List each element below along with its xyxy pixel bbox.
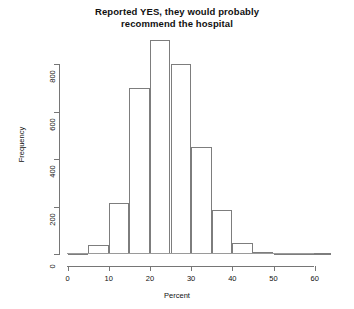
x-axis-tick xyxy=(232,266,233,271)
x-axis-tick-label: 40 xyxy=(220,274,244,283)
x-axis-tick-label: 50 xyxy=(262,274,286,283)
x-axis-tick xyxy=(274,266,275,271)
histogram-plot: Reported YES, they would probably recomm… xyxy=(0,0,354,309)
x-axis-tick xyxy=(315,266,316,271)
y-axis-tick-label: 400 xyxy=(48,159,57,185)
x-axis-tick-label: 10 xyxy=(97,274,121,283)
histogram-bar xyxy=(150,40,171,254)
x-axis-tick-label: 0 xyxy=(56,274,80,283)
x-axis-title: Percent xyxy=(0,291,354,300)
x-axis-tick-label: 20 xyxy=(138,274,162,283)
bar-baseline xyxy=(67,253,314,254)
histogram-bar xyxy=(212,210,233,254)
histogram-bar xyxy=(315,253,331,255)
y-axis-title: Frequency xyxy=(17,115,26,175)
x-axis-tick-label: 30 xyxy=(179,274,203,283)
histogram-bar xyxy=(129,88,150,254)
x-axis-tick xyxy=(68,266,69,271)
x-axis-tick xyxy=(191,266,192,271)
plot-panel: 0200400600800 Frequency 0102030405060 Pe… xyxy=(0,0,354,309)
histogram-bar xyxy=(109,203,130,254)
y-axis-tick-label: 600 xyxy=(48,111,57,137)
y-axis-line xyxy=(59,64,60,255)
x-axis-tick xyxy=(150,266,151,271)
histogram-bar xyxy=(191,147,212,254)
y-axis-tick-label: 800 xyxy=(48,64,57,90)
y-axis-tick-label: 200 xyxy=(48,206,57,232)
histogram-bar xyxy=(171,64,192,254)
x-axis-tick xyxy=(109,266,110,271)
x-axis-tick-label: 60 xyxy=(303,274,327,283)
